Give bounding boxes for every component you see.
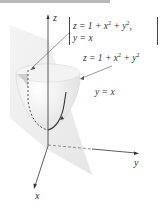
system-line-2: y = x [73,32,157,44]
surface-label: z = 1 + x2 + y2 [83,52,139,64]
z-axis-label: z [53,13,57,23]
system-line-1: z = 1 + x2 + y2, [73,17,157,32]
x-axis-arrow-icon [34,184,38,190]
z-axis-arrow-icon [47,14,50,19]
intersection-system: z = 1 + x2 + y2, y = x [69,17,158,45]
y-axis-arrow-icon [134,152,139,156]
plane-label: y = x [95,88,115,98]
y-axis [92,149,136,153]
y-axis-label: y [134,158,138,168]
surface-leader-line [82,66,112,78]
x-axis-label: x [35,191,39,201]
x-axis [35,146,48,186]
